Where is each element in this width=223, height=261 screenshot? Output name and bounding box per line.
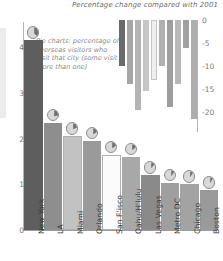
left-axis-tick-label: 3 (16, 88, 24, 97)
pie-marker-san-f-isco (105, 141, 117, 153)
neg-bar-la (127, 20, 133, 84)
chart-annotation: Pie charts: percentage of overseas visit… (36, 37, 122, 71)
right-axis-tick-label: -20 (202, 108, 214, 117)
x-axis-label-san-f-isco: San F'isco (115, 195, 124, 234)
left-axis-tick-label: 1 (16, 180, 24, 189)
left-axis-tick-label: 0 (16, 226, 24, 235)
right-axis-tick-label: -10 (202, 62, 214, 71)
x-axis-label-metro-dc: Metro DC (173, 198, 182, 234)
chart-title: Percentage change compared with 2001 (72, 1, 218, 9)
pie-marker-las-vegas (144, 161, 156, 173)
chart-root: Percentage change compared with 2001 Pie… (0, 0, 223, 261)
right-axis-tick-label: 0 (202, 16, 207, 25)
pie-marker-oahu-h-lulu (125, 143, 137, 155)
neg-bar-miami (135, 20, 141, 110)
neg-bar-las-vegas (167, 20, 173, 107)
right-axis-tick-label: -5 (202, 39, 209, 48)
pie-marker-miami (66, 122, 78, 134)
x-axis-label-oahu-h-lulu: Oahu/H'lulu (134, 188, 143, 234)
neg-bar-metro-dc (175, 20, 181, 84)
neg-bar-orlando (143, 20, 149, 91)
right-axis-tick-label: -15 (202, 85, 214, 94)
neg-bar-san-f-isco (151, 20, 157, 80)
left-axis-tick-label: 4 (16, 43, 24, 52)
x-axis-label-new-york: New York (37, 198, 46, 234)
x-axis-label-miami: Miami (76, 211, 85, 234)
neg-bar-boston (191, 20, 197, 119)
pie-marker-boston (203, 176, 215, 188)
bar-la (44, 123, 63, 230)
x-axis-label-boston: Boston (212, 207, 221, 234)
pie-marker-orlando (86, 127, 98, 139)
neg-bar-chicago (183, 20, 189, 48)
x-axis-label-chicago: Chicago (193, 203, 202, 234)
pie-marker-metro-dc (164, 169, 176, 181)
x-axis-label-orlando: Orlando (95, 203, 104, 234)
x-axis-label-la: LA (56, 224, 65, 234)
neg-bar-oahu-h-lulu (159, 20, 165, 66)
page-edge-shadow (0, 28, 6, 118)
neg-bar-new-york (119, 20, 125, 66)
left-axis-tick-label: 2 (16, 134, 24, 143)
pie-marker-chicago (183, 170, 195, 182)
x-axis-label-las-vegas: Las Vegas (154, 195, 163, 234)
pie-marker-la (47, 109, 59, 121)
